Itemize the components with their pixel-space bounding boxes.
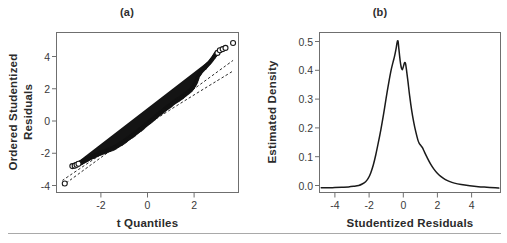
panel-b-ytick-00: 0.0 — [298, 180, 313, 192]
qq-outlier-point — [76, 161, 81, 166]
panel-a-ytick-2: 2 — [44, 83, 50, 95]
density-plot-svg: Estimated Density 0.5 0.4 0.3 0.2 0.1 0.… — [253, 0, 507, 243]
panel-a-ytick-4: 4 — [44, 51, 50, 63]
qq-outlier-point — [62, 181, 67, 186]
panel-a-xlabel: t Quantiles — [117, 217, 179, 229]
panel-a-xtick-neg2: -2 — [96, 199, 105, 211]
panel-b-plot-frame — [320, 33, 501, 193]
panel-b-ytick-03: 0.3 — [298, 93, 313, 105]
panel-b-ytick-04: 0.4 — [298, 64, 313, 76]
figure-container: (a) Ordered Studentized Residuals 4 2 0 … — [0, 0, 507, 243]
panel-b-ytick-02: 0.2 — [298, 122, 313, 134]
qq-plot-svg: Ordered Studentized Residuals 4 2 0 -2 -… — [0, 0, 254, 243]
panel-b-xtick-neg4: -4 — [330, 199, 339, 211]
panel-b-y-axis: 0.5 0.4 0.3 0.2 0.1 0.0 — [298, 36, 319, 192]
panel-b-ylabel: Estimated Density — [266, 60, 278, 164]
panel-a-ylabel-line1: Ordered Studentized — [7, 54, 19, 171]
panel-b-xtick-neg2: -2 — [364, 199, 373, 211]
panel-b-xtick-0: 0 — [400, 199, 406, 211]
panel-b: (b) Estimated Density 0.5 0.4 0.3 0.2 0.… — [253, 0, 507, 243]
panel-b-xtick-4: 4 — [469, 199, 475, 211]
panel-a-data-points — [62, 41, 235, 186]
panel-a-ylabel-line2: Residuals — [22, 84, 34, 140]
density-curve — [321, 41, 499, 188]
panel-b-xtick-2: 2 — [434, 199, 440, 211]
footer-rule — [8, 233, 501, 234]
panel-b-ytick-05: 0.5 — [298, 36, 313, 48]
panel-a-xtick-0: 0 — [145, 199, 151, 211]
panel-a-ytick-0: 0 — [44, 115, 50, 127]
qq-dense-point-band — [72, 48, 225, 166]
panel-a-ylabel: Ordered Studentized Residuals — [7, 54, 34, 171]
panel-a-xtick-2: 2 — [191, 199, 197, 211]
panel-a: (a) Ordered Studentized Residuals 4 2 0 … — [0, 0, 254, 243]
panel-a-x-axis: -2 0 2 — [96, 193, 197, 212]
qq-outlier-point — [231, 41, 236, 46]
panel-b-xlabel: Studentized Residuals — [347, 217, 474, 229]
panel-b-x-axis: -4 -2 0 2 4 — [330, 193, 474, 212]
panel-b-ytick-01: 0.1 — [298, 151, 313, 163]
panel-a-ytick-neg2: -2 — [41, 147, 50, 159]
lower-dashed-reference-line — [62, 71, 233, 186]
qq-outlier-point — [223, 45, 228, 50]
panel-a-ytick-neg4: -4 — [41, 180, 50, 192]
panel-a-y-axis: 4 2 0 -2 -4 — [41, 51, 56, 192]
